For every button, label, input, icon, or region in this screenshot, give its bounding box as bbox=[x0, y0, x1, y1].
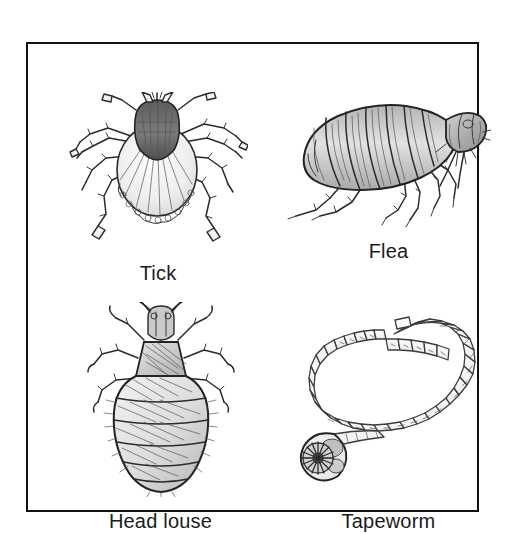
illustration-frame: Tick bbox=[26, 42, 479, 512]
tick-illustration bbox=[68, 92, 248, 242]
head-louse-illustration bbox=[86, 302, 236, 497]
panel-tick bbox=[68, 92, 248, 242]
panel-tapeworm bbox=[290, 306, 495, 496]
figure-root: Tick bbox=[0, 0, 508, 533]
panel-head-louse bbox=[86, 302, 236, 497]
caption-flea: Flea bbox=[286, 240, 491, 263]
flea-illustration bbox=[286, 94, 491, 229]
tapeworm-illustration bbox=[290, 306, 495, 496]
caption-head-louse: Head louse bbox=[58, 510, 263, 533]
panel-flea bbox=[286, 94, 491, 229]
tapeworm-scolex bbox=[301, 433, 347, 480]
caption-tick: Tick bbox=[68, 262, 248, 285]
caption-tapeworm: Tapeworm bbox=[286, 510, 491, 533]
